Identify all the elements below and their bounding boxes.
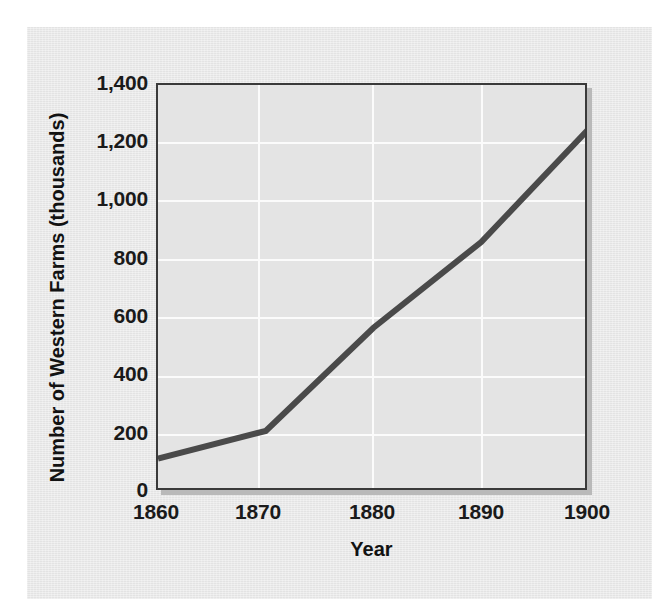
x-tick-1860: 1860	[111, 500, 201, 524]
y-tick-1000: 1,000	[96, 187, 148, 211]
y-tick-800: 800	[114, 246, 148, 270]
x-tick-1900: 1900	[542, 500, 632, 524]
y-axis-title: Number of Western Farms (thousands)	[46, 98, 69, 498]
y-tick-1400: 1,400	[96, 71, 148, 95]
x-tick-1870: 1870	[213, 500, 303, 524]
data-series-line	[158, 85, 587, 490]
y-tick-400: 400	[114, 362, 148, 386]
chart-figure: 1,400 1,200 1,000 800 600 400 200 0 1860…	[0, 0, 652, 599]
y-tick-1200: 1,200	[96, 129, 148, 153]
y-tick-600: 600	[114, 304, 148, 328]
plot-area	[156, 83, 587, 490]
x-tick-1880: 1880	[327, 500, 417, 524]
x-axis-title: Year	[156, 538, 587, 561]
y-tick-0: 0	[137, 478, 148, 502]
x-tick-1890: 1890	[436, 500, 526, 524]
y-tick-200: 200	[114, 421, 148, 445]
